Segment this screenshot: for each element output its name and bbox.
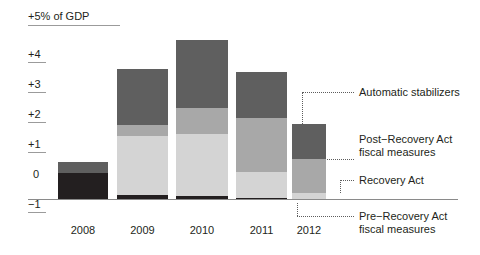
x-axis-label-2012: 2012 <box>292 224 326 236</box>
x-axis-label-2010: 2010 <box>176 224 228 236</box>
x-axis-label-2008: 2008 <box>58 224 108 236</box>
bar-2010-segment-recovery-act <box>176 134 228 196</box>
y-gridline-3 <box>28 92 46 93</box>
leader-line-pre-recovery-act <box>297 216 354 217</box>
leader-line-automatic-stabilizers-vertical <box>302 92 303 124</box>
bar-2008 <box>58 162 108 199</box>
legend-label-recovery-act: Recovery Act <box>359 174 424 187</box>
bar-2011 <box>236 72 287 199</box>
y-axis-label-0: 0 <box>33 168 39 180</box>
legend-label-post-recovery-act: Post−Recovery Act fiscal measures <box>359 133 452 159</box>
bar-2009-segment-pre-recovery-act <box>117 195 168 199</box>
x-axis-label-2009: 2009 <box>117 224 168 236</box>
y-gridline-1 <box>28 152 46 153</box>
y-axis-label-3: +3 <box>28 78 41 90</box>
bar-2009-segment-automatic-stabilizers <box>117 69 168 125</box>
x-axis-label-2011: 2011 <box>236 224 287 236</box>
bar-2008-segment-automatic-stabilizers <box>58 162 108 172</box>
y-gridline-2 <box>28 122 46 123</box>
y-axis-label-5: +5% of GDP <box>28 10 89 22</box>
leader-line-pre-recovery-act-vertical <box>297 203 298 216</box>
bar-2012-segment-post-recovery-act <box>292 159 326 193</box>
bar-2011-segment-recovery-act <box>236 172 287 197</box>
bar-2010-segment-automatic-stabilizers <box>176 40 228 108</box>
y-axis-label-1: +1 <box>28 138 41 150</box>
bar-2011-segment-automatic-stabilizers <box>236 72 287 118</box>
bar-2010-segment-pre-recovery-act <box>176 196 228 199</box>
bar-2010 <box>176 40 228 199</box>
bar-2009-segment-recovery-act <box>117 136 168 195</box>
leader-line-recovery-act <box>340 180 354 181</box>
bar-2009-segment-post-recovery-act <box>117 125 168 135</box>
y-gridline-neg1 <box>28 212 46 213</box>
y-axis-label-4: +4 <box>28 48 41 60</box>
leader-line-automatic-stabilizers <box>302 92 354 93</box>
legend-label-pre-recovery-act: Pre−Recovery Act fiscal measures <box>359 210 447 236</box>
bar-2012 <box>292 124 326 199</box>
y-axis-label-2: +2 <box>28 108 41 120</box>
stacked-bar-chart: +5% of GDP +4 +3 +2 +1 0 −1 <box>0 0 480 255</box>
bar-2011-segment-pre-recovery-act <box>236 198 287 199</box>
bar-2009 <box>117 69 168 199</box>
y-gridline-5 <box>28 25 120 26</box>
zero-baseline <box>28 199 458 200</box>
y-gridline-4 <box>28 62 46 63</box>
leader-line-recovery-act-vertical <box>340 180 341 193</box>
bar-2011-segment-post-recovery-act <box>236 118 287 173</box>
leader-line-post-recovery-act <box>327 159 354 160</box>
bar-2008-segment-pre-recovery-act <box>58 173 108 199</box>
bar-2012-segment-recovery-act <box>292 193 326 199</box>
bar-2010-segment-post-recovery-act <box>176 108 228 135</box>
bar-2012-segment-automatic-stabilizers <box>292 124 326 159</box>
legend-label-automatic-stabilizers: Automatic stabilizers <box>359 86 460 99</box>
